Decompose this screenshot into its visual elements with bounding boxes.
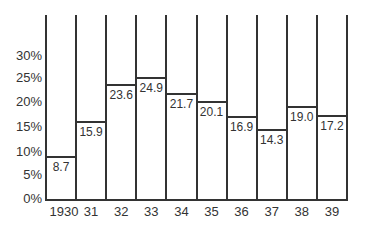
- x-axis-tick-label: 33: [136, 205, 166, 219]
- bar-top-line: [227, 116, 257, 118]
- bar-top-line: [166, 93, 196, 95]
- bar-chart: 0%5%10%15%20%25%30%8.7193015.93123.63224…: [0, 0, 367, 228]
- y-axis-tick-label: 10%: [0, 145, 42, 159]
- x-axis-tick-label: 31: [76, 205, 106, 219]
- y-axis-tick-label: 20%: [0, 95, 42, 109]
- y-axis-tick-label: 25%: [0, 71, 42, 85]
- bar-value-label: 15.9: [76, 126, 106, 139]
- column-divider: [105, 15, 107, 200]
- x-axis-baseline: [45, 199, 348, 201]
- y-axis-tick-label: 15%: [0, 120, 42, 134]
- bar-value-label: 24.9: [136, 82, 166, 95]
- column-divider: [256, 15, 258, 200]
- x-axis-tick-label: 32: [106, 205, 136, 219]
- bar-top-line: [136, 77, 166, 79]
- bar-value-label: 17.2: [317, 120, 347, 133]
- x-axis-tick-label: 39: [317, 205, 347, 219]
- x-axis-tick-label: 1930: [49, 205, 79, 219]
- bar-top-line: [76, 121, 106, 123]
- column-divider: [135, 15, 137, 200]
- bar-value-label: 14.3: [257, 134, 287, 147]
- y-axis-tick-label: 0%: [0, 192, 42, 206]
- x-axis-tick-label: 36: [227, 205, 257, 219]
- bar-top-line: [287, 106, 317, 108]
- bar-top-line: [317, 115, 347, 117]
- bar-top-line: [197, 101, 227, 103]
- bar-value-label: 21.7: [166, 98, 196, 111]
- bar-value-label: 8.7: [46, 161, 76, 174]
- bar-top-line: [257, 129, 287, 131]
- x-axis-tick-label: 37: [257, 205, 287, 219]
- x-axis-tick-label: 34: [166, 205, 196, 219]
- bar-top-line: [46, 156, 76, 158]
- column-divider: [346, 15, 348, 200]
- bar-value-label: 23.6: [106, 89, 136, 102]
- bar-value-label: 20.1: [197, 106, 227, 119]
- x-axis-tick-label: 38: [287, 205, 317, 219]
- x-axis-tick-label: 35: [197, 205, 227, 219]
- y-axis-tick-label: 30%: [0, 49, 42, 63]
- bar-top-line: [106, 84, 136, 86]
- y-axis-tick-label: 5%: [0, 168, 42, 182]
- bar-value-label: 16.9: [227, 121, 257, 134]
- bar-value-label: 19.0: [287, 111, 317, 124]
